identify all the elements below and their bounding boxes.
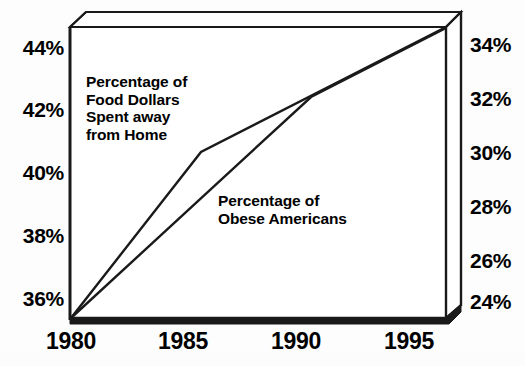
chart-frame-3d (70, 12, 461, 324)
y-axis-right-tick-30: 30% (470, 141, 525, 165)
x-axis-tick-1995: 1995 (363, 328, 455, 355)
y-axis-right-tick-28: 28% (470, 195, 525, 219)
frame-front-face (70, 27, 446, 318)
x-axis-tick-1990: 1990 (250, 328, 342, 355)
page-bottom-margin (0, 352, 525, 366)
x-axis-tick-1985: 1985 (137, 328, 229, 355)
chart-canvas: 44% 42% 40% 38% 36% 34% 32% 30% 28% 26% … (0, 0, 525, 366)
series-annotation-obese-americans: Percentage of Obese Americans (218, 192, 347, 227)
y-axis-right-tick-26: 26% (470, 249, 525, 273)
frame-top-face (70, 12, 461, 27)
y-axis-left-tick-36: 36% (8, 287, 64, 311)
y-axis-left-tick-40: 40% (8, 161, 64, 185)
y-axis-right-tick-34: 34% (470, 33, 525, 57)
line-chart-graphic (0, 0, 525, 366)
frame-right-face (446, 12, 461, 318)
y-axis-right-tick-32: 32% (470, 87, 525, 111)
y-axis-right-tick-24: 24% (470, 290, 525, 314)
y-axis-left-tick-42: 42% (8, 98, 64, 122)
x-axis-tick-1980: 1980 (25, 328, 117, 355)
series-annotation-food-dollars: Percentage of Food Dollars Spent away fr… (86, 73, 187, 143)
y-axis-left-tick-38: 38% (8, 224, 64, 248)
y-axis-left-tick-44: 44% (8, 36, 64, 60)
